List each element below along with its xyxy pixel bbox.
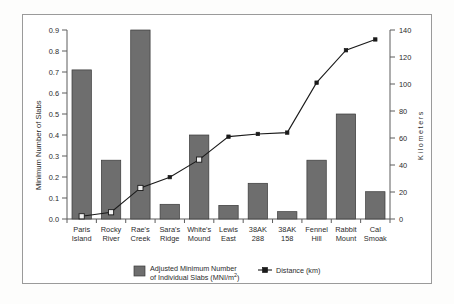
legend-bar-label-line1: Adjusted Minimum Number: [150, 264, 237, 273]
x-axis-category-labels: ParisIslandRockyRiverRae'sCreekSara'sRid…: [72, 225, 387, 243]
distance-marker: [315, 81, 318, 84]
x-axis-category-label: Paris: [73, 225, 90, 234]
distance-marker: [344, 49, 347, 52]
y2-tick-label: 60: [399, 134, 407, 143]
x-axis-category-label: 38AK: [278, 225, 296, 234]
distance-marker: [108, 210, 113, 215]
legend-bar-label-line2: of Individual Slabs (MNI/m2): [150, 272, 239, 281]
distance-line-series: [82, 39, 376, 216]
y-tick-label: 0.0: [49, 215, 59, 224]
y2-axis-title: Kilometers: [416, 110, 425, 160]
y2-tick-label: 140: [399, 26, 411, 35]
distance-marker: [197, 157, 202, 162]
y2-tick-label: 120: [399, 53, 411, 62]
y-tick-label: 0.5: [49, 110, 59, 119]
y-tick-label: 0.4: [49, 131, 59, 140]
distance-marker: [286, 131, 289, 134]
x-axis-category-label: Mound: [188, 234, 211, 243]
x-axis-category-label: Hill: [311, 234, 322, 243]
x-axis-category-label: Smoak: [364, 234, 387, 243]
x-axis-category-label: Rabbit: [335, 225, 356, 234]
bar: [72, 70, 91, 219]
y-tick-label: 0.6: [49, 89, 59, 98]
y2-tick-label: 80: [399, 107, 407, 116]
x-axis-category-label: 38AK: [249, 225, 267, 234]
y2-tick-label: 40: [399, 161, 407, 170]
right-axis: 140 120 100 80 60 40 20 0: [390, 26, 411, 224]
bar: [336, 114, 355, 219]
y2-tick-label: 100: [399, 80, 411, 89]
y-tick-label: 0.8: [49, 47, 59, 56]
x-axis-category-label: Ridge: [160, 234, 179, 243]
distance-marker: [227, 135, 230, 138]
distance-marker: [374, 38, 377, 41]
x-axis-category-label: Mount: [336, 234, 357, 243]
x-axis-category-label: White's: [187, 225, 211, 234]
x-axis-category-label: Fennel: [305, 225, 328, 234]
x-axis-category-label: 158: [281, 234, 293, 243]
x-axis-category-label: Cal: [370, 225, 381, 234]
x-axis-category-label: Sara's: [159, 225, 180, 234]
bar: [278, 212, 297, 219]
x-axis-category-label: Rae's: [131, 225, 150, 234]
x-axis-category-label: Island: [72, 234, 92, 243]
left-axis-tick-labels: 0.9 0.8 0.7 0.6 0.5 0.4 0.3 0.2 0.1 0.0: [49, 26, 59, 224]
x-axis-category-label: Creek: [131, 234, 151, 243]
y-tick-label: 0.9: [49, 26, 59, 35]
y2-tick-label: 0: [399, 215, 403, 224]
distance-marker: [138, 185, 143, 190]
legend-line-marker-square: [263, 268, 268, 273]
x-axis-category-label: East: [221, 234, 236, 243]
bar: [366, 192, 385, 219]
y-tick-label: 0.1: [49, 194, 59, 203]
x-axis-category-label: Lewis: [219, 225, 238, 234]
bar: [248, 183, 267, 219]
x-axis-category-label: 288: [252, 234, 264, 243]
right-axis-tick-labels: 140 120 100 80 60 40 20 0: [399, 26, 411, 224]
figure-canvas: Minimum Number of Slabs Kilometers: [0, 0, 454, 304]
legend-bar-swatch: [134, 266, 145, 276]
y2-tick-label: 20: [399, 188, 407, 197]
bar: [219, 205, 238, 219]
y-tick-label: 0.2: [49, 173, 59, 182]
chart-svg-container: Minimum Number of Slabs Kilometers: [0, 0, 454, 304]
distance-marker: [79, 214, 84, 219]
x-axis-category-label: River: [102, 234, 120, 243]
x-axis-category-label: Rocky: [101, 225, 122, 234]
distance-polyline: [82, 39, 376, 216]
y-axis-title: Minimum Number of Slabs: [34, 100, 43, 190]
legend-line-label: Distance (km): [276, 266, 320, 275]
y-tick-label: 0.3: [49, 152, 59, 161]
distance-marker: [168, 175, 171, 178]
legend: Adjusted Minimum Number of Individual Sl…: [134, 264, 320, 282]
left-axis-ticks: [62, 30, 67, 219]
bar: [307, 160, 326, 219]
x-axis-ticks: [67, 219, 390, 223]
bar: [160, 204, 179, 219]
right-axis-ticks: [390, 30, 395, 219]
left-axis: 0.9 0.8 0.7 0.6 0.5 0.4 0.3 0.2 0.1 0.0: [49, 26, 67, 224]
distance-marker: [256, 132, 259, 135]
bar: [189, 135, 208, 219]
chart-plot: Minimum Number of Slabs Kilometers: [0, 0, 454, 304]
y-tick-label: 0.7: [49, 68, 59, 77]
